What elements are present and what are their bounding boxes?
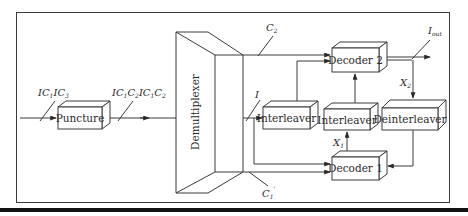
x1-label: X1	[332, 137, 344, 149]
c1prime-tick	[249, 172, 268, 186]
puncture-label: Puncture	[56, 112, 105, 124]
deinterleaver-block: Deinterleaver	[373, 100, 447, 130]
decoder1-block: Decoder 1	[328, 151, 387, 180]
decoder2-block: Decoder 2	[328, 42, 387, 72]
turbo-decoder-diagram: IC1IC3 Puncture IC1C2IC1C2 Demultiplexer…	[0, 0, 468, 216]
c1prime-label: C1'	[262, 185, 275, 200]
deinterleaver-label: Deinterleaver	[373, 113, 447, 125]
c2-label: C2	[266, 22, 278, 34]
demultiplexer-block: Demultiplexer	[176, 32, 243, 193]
input-signal-label: IC1IC3	[37, 87, 69, 99]
c2-tick	[258, 36, 273, 56]
interleaver-b-label: Interleaver	[317, 114, 377, 126]
i-label: I	[254, 89, 260, 100]
puncture-block: Puncture	[56, 101, 110, 129]
demultiplexer-label: Demultiplexer	[189, 73, 201, 150]
x2-label: X2	[399, 77, 411, 89]
bottom-rule	[0, 208, 468, 212]
iout-label: Iout	[427, 25, 442, 37]
interleaver-a-block: Interleaver	[257, 101, 318, 129]
punctured-signal-label: IC1C2IC1C2	[111, 87, 166, 99]
decoder2-label: Decoder 2	[328, 54, 383, 66]
decoder1-label: Decoder 1	[328, 162, 383, 174]
interleaver-b-block: Interleaver	[317, 103, 378, 130]
interleaver-a-label: Interleaver	[257, 112, 317, 124]
iout-tick	[412, 40, 430, 59]
